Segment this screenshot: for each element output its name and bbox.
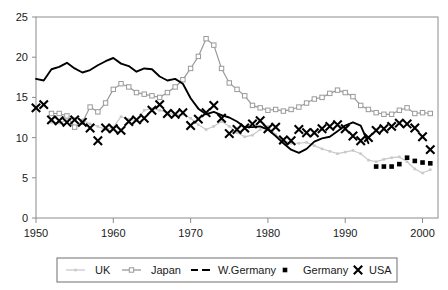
- series-w-germany: [36, 58, 368, 153]
- x-tick-label: 1950: [24, 227, 48, 239]
- y-axis: 0510152025: [16, 11, 36, 224]
- legend-label: Japan: [151, 264, 181, 276]
- y-tick-label: 5: [22, 172, 28, 184]
- legend-label: USA: [369, 264, 392, 276]
- y-tick-label: 25: [16, 11, 28, 23]
- x-axis: 195019601970198019902000: [24, 218, 435, 239]
- legend-label: UK: [95, 264, 111, 276]
- x-tick-label: 1990: [333, 227, 357, 239]
- series-germany: [374, 155, 433, 168]
- x-tick-label: 1960: [101, 227, 125, 239]
- chart-legend: UKJapanW.GermanyGermanyUSA: [57, 258, 397, 282]
- legend-label: W.Germany: [218, 264, 277, 276]
- y-tick-label: 15: [16, 91, 28, 103]
- series-japan: [49, 37, 432, 130]
- x-tick-label: 1980: [256, 227, 280, 239]
- chart-canvas: 0510152025195019601970198019902000UKJapa…: [0, 0, 448, 290]
- series-uk: [50, 107, 431, 174]
- legend-label: Germany: [303, 264, 349, 276]
- plot-frame: [36, 17, 438, 218]
- y-tick-label: 0: [22, 212, 28, 224]
- y-tick-label: 10: [16, 132, 28, 144]
- x-tick-label: 2000: [410, 227, 434, 239]
- chart-figure: 0510152025195019601970198019902000UKJapa…: [0, 0, 448, 290]
- y-tick-label: 20: [16, 51, 28, 63]
- x-tick-label: 1970: [178, 227, 202, 239]
